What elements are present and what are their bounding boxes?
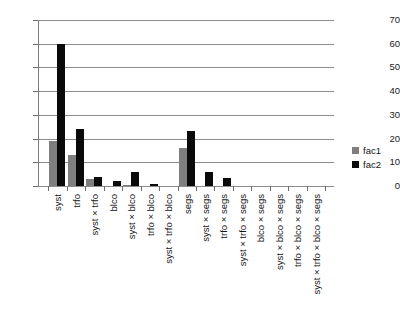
bar-group	[160, 20, 176, 186]
bar-fac2	[94, 177, 102, 186]
bar-group	[234, 20, 250, 186]
bar-fac1	[179, 148, 187, 186]
bar-group	[49, 20, 65, 186]
bar-fac2	[57, 44, 65, 186]
bar-fac1	[68, 155, 76, 186]
bar-fac1	[86, 179, 94, 186]
x-tick-label: syst × trfo	[90, 194, 100, 235]
x-tick-mark	[178, 186, 179, 191]
x-tick-label: segs	[183, 194, 193, 214]
legend-swatch-icon	[352, 161, 359, 168]
y-tick-label: 20	[370, 134, 400, 143]
x-tick-label: trfo × blco	[146, 194, 156, 236]
x-tick-mark	[251, 186, 252, 191]
bar-fac2	[131, 172, 139, 186]
x-tick-mark	[85, 186, 86, 191]
x-tick-mark	[270, 186, 271, 191]
legend-swatch-icon	[352, 147, 359, 154]
x-tick-label: syst × segs	[201, 194, 211, 242]
bar-group	[86, 20, 102, 186]
y-tick-label: 30	[370, 110, 400, 119]
x-tick-label: trfo × blco × segs	[293, 194, 303, 267]
x-tick-mark	[122, 186, 123, 191]
bar-fac2	[205, 172, 213, 186]
x-tick-label: trfo	[72, 194, 82, 208]
bar-chart: 010203040506070 systtrfosyst × trfoblcos…	[0, 0, 400, 318]
bar-group	[271, 20, 287, 186]
x-tick-mark	[196, 186, 197, 191]
y-tick-label: 70	[370, 15, 400, 24]
x-tick-mark	[141, 186, 142, 191]
legend-item[interactable]: fac1	[352, 143, 381, 157]
legend-label: fac2	[363, 159, 381, 170]
legend-item[interactable]: fac2	[352, 157, 381, 171]
x-tick-mark	[67, 186, 68, 191]
bar-fac1	[49, 141, 57, 186]
x-tick-mark	[325, 186, 326, 191]
x-tick-mark	[48, 186, 49, 191]
bar-group	[308, 20, 324, 186]
plot-area	[38, 20, 333, 186]
y-tick-label: 60	[370, 39, 400, 48]
x-tick-label: syst × trfo × blco × segs	[312, 194, 322, 295]
bar-group	[252, 20, 268, 186]
x-tick-label: syst × trfo × blco	[164, 194, 174, 264]
x-axis-baseline	[38, 186, 334, 187]
bar-fac2	[223, 178, 231, 186]
x-tick-label: blco	[109, 194, 119, 211]
bar-group	[68, 20, 84, 186]
x-tick-mark	[288, 186, 289, 191]
y-tick-label: 50	[370, 62, 400, 71]
bar-group	[289, 20, 305, 186]
bar-group	[123, 20, 139, 186]
bar-fac2	[76, 129, 84, 186]
bar-group	[142, 20, 158, 186]
bar-group	[215, 20, 231, 186]
chart-legend: fac1fac2	[352, 143, 381, 171]
x-tick-label: syst × blco	[127, 194, 137, 239]
x-tick-mark	[214, 186, 215, 191]
x-tick-mark	[104, 186, 105, 191]
x-tick-mark	[307, 186, 308, 191]
bar-fac2	[187, 131, 195, 186]
x-tick-label: trfo × segs	[219, 194, 229, 239]
bar-group	[197, 20, 213, 186]
x-tick-label: syst × blco × segs	[275, 194, 285, 270]
x-tick-label: blco × segs	[256, 194, 266, 242]
x-tick-label: syst	[53, 194, 63, 211]
bar-group	[179, 20, 195, 186]
y-tick-label: 0	[370, 181, 400, 190]
legend-label: fac1	[363, 145, 381, 156]
x-tick-mark	[159, 186, 160, 191]
y-tick-label: 40	[370, 86, 400, 95]
bar-group	[105, 20, 121, 186]
x-tick-mark	[233, 186, 234, 191]
x-tick-label: syst × trfo × segs	[238, 194, 248, 266]
